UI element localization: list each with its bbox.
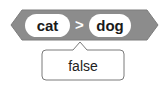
left-input-value: cat <box>37 17 59 34</box>
right-input-field[interactable]: dog <box>89 14 131 37</box>
left-input-field[interactable]: cat <box>25 14 70 37</box>
operator-symbol: > <box>73 13 86 36</box>
report-value: false <box>42 51 124 80</box>
right-input-value: dog <box>96 17 124 34</box>
